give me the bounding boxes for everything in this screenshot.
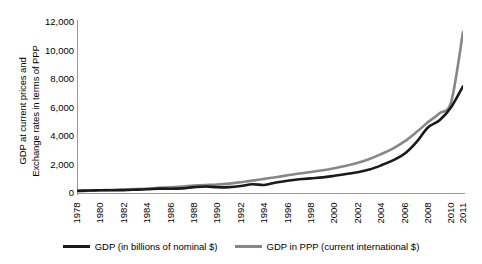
plot-area [77,22,463,193]
x-tick-label: 1982 [119,196,129,230]
y-tick-label: 4,000 [30,131,74,141]
line-swatch-gray [235,245,262,248]
x-tick-label: 2008 [423,196,433,230]
legend-item: GDP (in billions of nominal $) [63,241,218,252]
series-line-gdp-nominal [77,86,463,191]
x-tick-label: 2004 [376,196,386,230]
x-tick-label: 1990 [212,196,222,230]
x-tick-label: 1998 [306,196,316,230]
line-swatch-black [63,245,90,248]
y-tick-label: 6,000 [30,103,74,113]
y-tick-label: 0 [30,188,74,198]
chart-legend: GDP (in billions of nominal $)GDP in PPP… [0,236,482,256]
series-line-gdp-ppp [77,32,463,191]
x-tick-label: 1984 [142,196,152,230]
legend-label: GDP in PPP (current international $) [267,241,420,252]
x-axis-tick-labels: 1978198019821984198619881990199219941996… [77,196,465,230]
x-tick-label: 1986 [166,196,176,230]
x-tick-label: 1992 [236,196,246,230]
legend-item: GDP in PPP (current international $) [235,241,420,252]
y-tick-label: 10,000 [30,46,74,56]
x-tick-label: 2010 [446,196,456,230]
x-tick-label: 1980 [95,196,105,230]
legend-label: GDP (in billions of nominal $) [95,241,218,252]
y-axis-tick-labels: 02,0004,0006,0008,00010,00012,000 [26,0,74,264]
x-axis-line [77,193,465,194]
x-tick-label: 2002 [353,196,363,230]
y-tick-label: 2,000 [30,160,74,170]
x-tick-label: 2000 [329,196,339,230]
gdp-line-chart: GDP at current prices and Exchange rates… [0,0,482,264]
y-tick-label: 12,000 [30,17,74,27]
x-tick-label: 1978 [72,196,82,230]
x-tick-label: 2006 [400,196,410,230]
x-tick-label: 2011 [458,196,468,230]
x-tick-label: 1996 [283,196,293,230]
x-tick-label: 1994 [259,196,269,230]
y-tick-label: 8,000 [30,74,74,84]
x-tick-label: 1988 [189,196,199,230]
